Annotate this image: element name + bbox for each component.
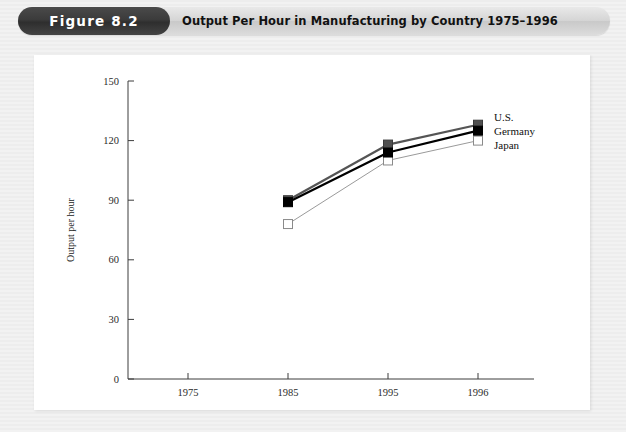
line-chart: 0306090120150 1975198519951996 U.S.Germa…: [34, 55, 590, 410]
figure-number-badge: Figure 8.2: [18, 7, 170, 35]
y-tick-label: 120: [103, 135, 119, 146]
chart-panel: 0306090120150 1975198519951996 U.S.Germa…: [34, 55, 590, 410]
x-tick-label: 1975: [178, 387, 199, 398]
x-tick-label: 1985: [278, 387, 299, 398]
y-tick-label: 0: [114, 374, 119, 385]
data-point-marker: [284, 198, 293, 207]
data-point-marker: [474, 126, 483, 135]
legend-label: U.S.: [494, 111, 514, 123]
y-axis-title-text: Output per hour: [65, 197, 76, 262]
figure-header-bar: Figure 8.2 Output Per Hour in Manufactur…: [18, 7, 610, 35]
x-tick-label: 1995: [378, 387, 399, 398]
x-axis: 1975198519951996: [128, 373, 534, 398]
y-tick-label: 90: [109, 195, 120, 206]
legend-label: Germany: [494, 125, 535, 137]
data-series-group: [284, 120, 483, 228]
figure-container: Figure 8.2 Output Per Hour in Manufactur…: [0, 0, 626, 432]
data-point-marker: [284, 220, 293, 229]
figure-number-label: Figure 8.2: [49, 13, 139, 29]
data-point-marker: [384, 148, 393, 157]
y-tick-label: 60: [109, 254, 120, 265]
y-axis: 0306090120150: [103, 76, 134, 385]
chart-legend: U.S.GermanyJapan: [494, 111, 535, 151]
data-point-marker: [474, 136, 483, 145]
y-tick-label: 150: [103, 76, 119, 87]
y-tick-label: 30: [109, 314, 120, 325]
x-tick-label: 1996: [468, 387, 489, 398]
legend-label: Japan: [494, 139, 520, 151]
figure-title: Output Per Hour in Manufacturing by Coun…: [182, 7, 558, 35]
y-axis-title: Output per hour: [65, 197, 76, 262]
